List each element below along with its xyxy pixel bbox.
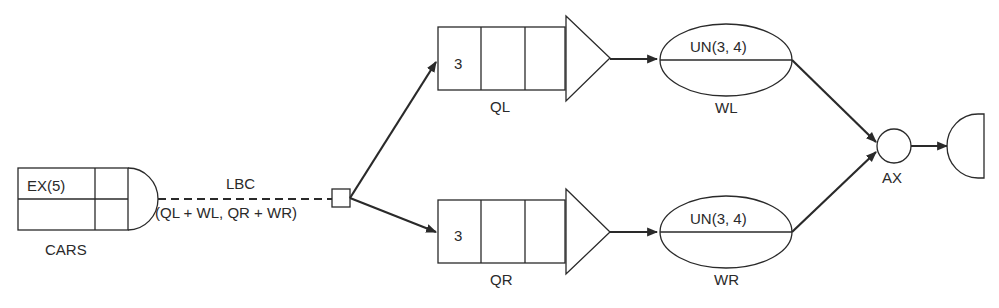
ql-capacity: 3 — [454, 55, 462, 72]
selector-node-lbc — [332, 189, 350, 207]
lbc-criteria: (QL + WL, QR + WR) — [155, 204, 297, 221]
terminate-node — [947, 114, 984, 178]
edge-wl-ax — [792, 60, 876, 142]
cars-label: CARS — [45, 241, 87, 258]
assembly-node-ax: AX — [877, 129, 911, 186]
flow-diagram: EX(5) CARS LBC (QL + WL, QR + WR) 3 QL U… — [0, 0, 999, 308]
qr-label: QR — [490, 271, 513, 288]
lbc-label: LBC — [226, 175, 255, 192]
qr-capacity: 3 — [454, 227, 462, 244]
edge-wr-ax — [792, 152, 876, 232]
edge-lbc-ql — [350, 62, 436, 198]
cars-time: EX(5) — [27, 177, 65, 194]
create-node-cars: EX(5) CARS — [18, 168, 158, 258]
queue-node-ql: 3 QL — [438, 16, 610, 115]
wr-duration: UN(3, 4) — [690, 210, 747, 227]
activity-node-wr: UN(3, 4) WR — [660, 196, 792, 288]
wl-label: WL — [715, 99, 738, 116]
queue-node-qr: 3 QR — [438, 189, 610, 288]
wr-label: WR — [714, 271, 739, 288]
activity-node-wl: UN(3, 4) WL — [660, 24, 792, 116]
ql-label: QL — [490, 98, 510, 115]
wl-duration: UN(3, 4) — [690, 38, 747, 55]
ax-label: AX — [882, 169, 902, 186]
edge-lbc-qr — [350, 198, 436, 232]
